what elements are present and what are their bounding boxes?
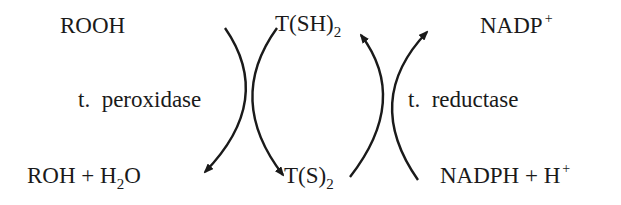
label-reductase: t. reductase	[408, 88, 518, 111]
nadph-main: NADPH + H	[440, 163, 560, 188]
arrow-tsh2-to-ts2	[252, 28, 283, 175]
ts2-sub: 2	[326, 176, 334, 192]
nadp-sup: +	[545, 11, 553, 26]
arrow-ts2-to-tsh2	[350, 35, 383, 177]
reductase-text: t. reductase	[408, 87, 518, 112]
arrow-rooh-to-roh	[205, 28, 246, 172]
roh-main: ROH + H	[27, 163, 117, 188]
label-tsh2: T(SH)2	[275, 12, 341, 35]
label-nadp: NADP+	[480, 14, 553, 37]
tsh2-main: T(SH)	[275, 11, 334, 36]
label-roh-h2o: ROH + H2O	[27, 164, 141, 187]
rooh-text: ROOH	[60, 13, 125, 38]
nadph-sup: +	[562, 161, 570, 176]
label-ts2: T(S)2	[284, 164, 334, 187]
nadp-main: NADP	[480, 13, 543, 38]
label-peroxidase: t. peroxidase	[78, 88, 201, 111]
peroxidase-text: t. peroxidase	[78, 87, 201, 112]
label-nadph: NADPH + H+	[440, 164, 570, 187]
roh-sub: 2	[117, 176, 125, 192]
tsh2-sub: 2	[334, 24, 342, 40]
ts2-main: T(S)	[284, 163, 326, 188]
label-rooh: ROOH	[60, 14, 125, 37]
roh-tail: O	[124, 163, 141, 188]
